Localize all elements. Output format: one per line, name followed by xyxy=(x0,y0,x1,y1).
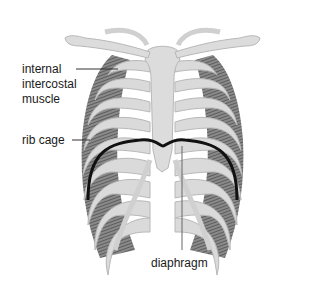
clavicle-right xyxy=(175,36,260,58)
rib-cage-illustration xyxy=(0,0,325,297)
label-muscle: muscle xyxy=(22,92,60,106)
label-rib-cage: rib cage xyxy=(22,133,65,147)
rib-cage-diagram: internal intercostal muscle rib cage dia… xyxy=(0,0,325,297)
label-diaphragm: diaphragm xyxy=(151,256,208,270)
label-internal: internal xyxy=(22,62,61,76)
clavicle-left xyxy=(65,36,150,58)
label-intercostal: intercostal xyxy=(22,77,77,91)
